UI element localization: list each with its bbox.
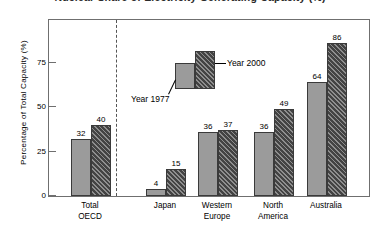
- y-tick-label-25: 25: [37, 147, 46, 156]
- bar-value-label: 37: [224, 120, 233, 129]
- y-axis-label: Percentage of Total Capacity (%): [19, 18, 28, 188]
- y-tick-75: 75: [49, 62, 56, 63]
- y-tick-label-50: 50: [37, 102, 46, 111]
- bar-1977: 36: [254, 132, 274, 196]
- bar-1977: 36: [198, 132, 218, 196]
- bar-value-label: 36: [204, 122, 213, 131]
- bar-value-label: 40: [97, 115, 106, 124]
- bar-1977: 4: [146, 189, 166, 196]
- y-tick-label-0: 0: [42, 191, 46, 200]
- bar-group: 415: [146, 20, 186, 196]
- plot-area: 0255075 3240415363736496486 Year 2000 Ye…: [48, 19, 370, 197]
- bar-1977: 32: [71, 139, 91, 196]
- category-divider: [116, 20, 117, 196]
- bar-chart-figure: Nuclear Share of Electricity Generating …: [0, 0, 380, 229]
- bar-2000: 37: [218, 130, 238, 196]
- bar-2000: 15: [166, 169, 186, 196]
- bar-value-label: 4: [154, 179, 158, 188]
- bar-group: 3649: [254, 20, 294, 196]
- bar-2000: 49: [274, 109, 294, 196]
- bar-value-label: 49: [280, 99, 289, 108]
- x-category-label: Total OECD: [58, 201, 122, 222]
- bar-value-label: 36: [260, 122, 269, 131]
- bar-value-label: 86: [333, 33, 342, 42]
- y-tick-0: 0: [49, 195, 56, 196]
- bar-value-label: 15: [172, 159, 181, 168]
- x-category-label: Western Europe: [185, 201, 249, 222]
- chart-title: Nuclear Share of Electricity Generating …: [54, 0, 325, 3]
- y-tick-label-75: 75: [37, 58, 46, 67]
- chart-title-clipped: Nuclear Share of Electricity Generating …: [0, 0, 380, 9]
- bar-value-label: 64: [313, 72, 322, 81]
- bar-2000: 40: [91, 125, 111, 196]
- y-tick-50: 50: [49, 106, 56, 107]
- bar-value-label: 32: [77, 129, 86, 138]
- x-category-label: Australia: [294, 201, 358, 212]
- bar-group: 3240: [71, 20, 111, 196]
- bar-2000: 86: [327, 43, 347, 196]
- bar-group: 6486: [307, 20, 347, 196]
- bar-group: 3637: [198, 20, 238, 196]
- bar-1977: 64: [307, 82, 327, 196]
- y-tick-25: 25: [49, 151, 56, 152]
